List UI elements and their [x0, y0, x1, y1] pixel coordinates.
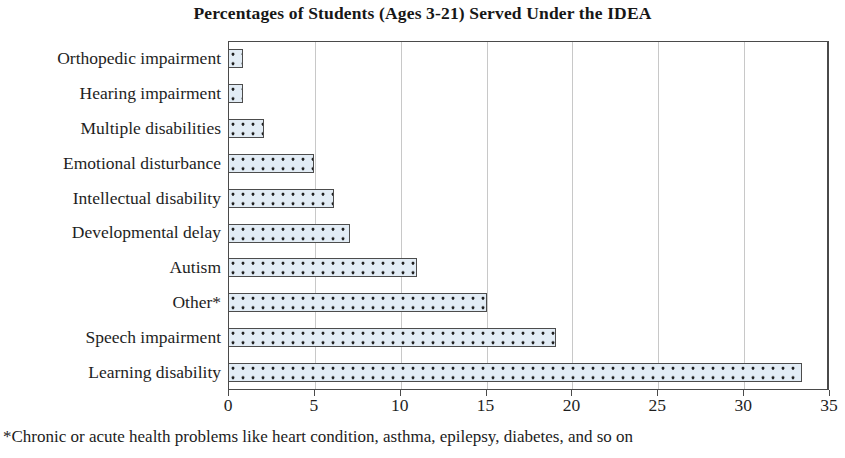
bar-row — [228, 41, 829, 76]
y-axis-label: Developmental delay — [0, 224, 221, 242]
x-tick-label: 20 — [563, 395, 581, 416]
y-axis-label: Learning disability — [0, 364, 221, 382]
x-tick-label: 30 — [734, 395, 752, 416]
bar-row — [228, 111, 829, 146]
footnote: *Chronic or acute health problems like h… — [3, 427, 843, 447]
y-axis-label: Other* — [0, 294, 221, 312]
bar-row — [228, 181, 829, 216]
x-tick-label: 0 — [224, 395, 233, 416]
x-tick-label: 35 — [820, 395, 838, 416]
bar — [228, 49, 243, 68]
bar — [228, 84, 243, 103]
x-tick-label: 10 — [391, 395, 409, 416]
bar — [228, 189, 334, 208]
y-axis-category-labels: Orthopedic impairmentHearing impairmentM… — [0, 41, 221, 390]
bar — [228, 224, 350, 243]
y-axis-label: Speech impairment — [0, 329, 221, 347]
bars-layer — [228, 41, 829, 390]
bar-row — [228, 250, 829, 285]
bar-row — [228, 320, 829, 355]
bar-row — [228, 216, 829, 251]
bar-row — [228, 355, 829, 390]
bar-row — [228, 146, 829, 181]
chart-title: Percentages of Students (Ages 3-21) Serv… — [0, 3, 845, 24]
bar — [228, 328, 556, 347]
y-axis-label: Autism — [0, 259, 221, 277]
x-tick-label: 5 — [309, 395, 318, 416]
bar-row — [228, 285, 829, 320]
y-axis-label: Orthopedic impairment — [0, 50, 221, 68]
x-axis-tick-labels: 05101520253035 — [228, 395, 829, 421]
x-tick-label: 15 — [477, 395, 495, 416]
bar — [228, 119, 264, 138]
y-axis-label: Multiple disabilities — [0, 120, 221, 138]
y-axis-label: Emotional disturbance — [0, 155, 221, 173]
y-axis-label: Intellectual disability — [0, 190, 221, 208]
bar — [228, 154, 314, 173]
bar-row — [228, 76, 829, 111]
bar — [228, 258, 417, 277]
x-tick-label: 25 — [649, 395, 667, 416]
bar — [228, 363, 802, 382]
bar — [228, 293, 487, 312]
y-axis-label: Hearing impairment — [0, 85, 221, 103]
